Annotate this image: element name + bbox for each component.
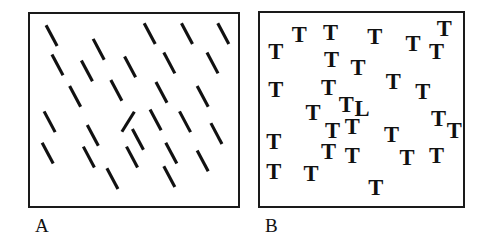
distractor-line-segment <box>52 55 63 76</box>
distractor-line-segment <box>181 23 192 44</box>
distractor-line-segment <box>144 23 155 44</box>
distractor-line-segment <box>44 111 55 132</box>
distractor-letter-t: T <box>305 100 320 125</box>
distractor-letter-t: T <box>429 39 444 64</box>
distractor-letter-t: T <box>437 16 452 41</box>
distractor-line-segment <box>211 123 222 144</box>
distractor-line-segment <box>150 109 161 130</box>
distractor-line-segment <box>81 60 92 81</box>
distractor-letter-t: T <box>367 24 382 49</box>
distractor-letter-t: T <box>400 145 415 170</box>
distractor-letter-t: T <box>266 129 281 154</box>
distractor-line-segment <box>207 53 218 74</box>
distractor-line-segment <box>218 23 229 44</box>
distractor-letter-t: T <box>268 39 283 64</box>
panel-b-letters-svg: TTTTTTTTTTTTTTLTTTTTTTTTTTTTT <box>260 13 463 206</box>
distractor-letter-t: T <box>384 122 399 147</box>
distractor-line-segment <box>179 111 190 132</box>
distractor-letter-t: T <box>323 20 338 45</box>
distractor-letter-t: T <box>324 47 339 72</box>
distractor-line-segment <box>70 86 81 107</box>
distractor-line-segment <box>125 57 136 78</box>
distractor-line-segment <box>87 125 98 146</box>
distractor-line-segment <box>42 143 53 164</box>
distractor-line-segment <box>164 166 175 187</box>
distractor-line-segment <box>166 143 177 164</box>
distractor-line-segment <box>156 82 167 103</box>
panel-b-stimulus-layer: TTTTTTTTTTTTTTLTTTTTTTTTTTTTT <box>260 13 463 206</box>
distractor-letter-t: T <box>268 77 283 102</box>
panel-b-box: TTTTTTTTTTTTTTLTTTTTTTTTTTTTT <box>258 11 465 208</box>
panel-a-box <box>28 12 240 208</box>
distractor-line-segment <box>197 151 208 172</box>
target-line-segment <box>122 112 134 132</box>
panel-b-label: B <box>265 216 278 235</box>
distractor-line-segment <box>132 129 143 150</box>
distractor-line-segment <box>83 147 94 168</box>
distractor-letter-t: T <box>429 143 444 168</box>
distractor-line-segment <box>127 147 138 168</box>
distractor-letter-t: T <box>351 55 366 80</box>
distractor-letter-t: T <box>345 114 360 139</box>
distractor-letter-t: T <box>431 106 446 131</box>
distractor-letter-t: T <box>292 22 307 47</box>
distractor-line-segment <box>46 25 57 46</box>
distractor-letter-t: T <box>386 69 401 94</box>
panel-a-lines-svg <box>30 14 238 206</box>
panel-a-label: A <box>35 216 49 235</box>
distractor-letter-t: T <box>321 75 336 100</box>
distractor-letter-t: T <box>415 79 430 104</box>
distractor-letter-t: T <box>368 175 383 200</box>
panel-a-stimulus-layer <box>30 14 238 206</box>
distractor-letter-t: T <box>447 118 462 143</box>
visual-search-figure: A TTTTTTTTTTTTTTLTTTTTTTTTTTTTT B <box>0 0 491 247</box>
distractor-letter-t: T <box>321 139 336 164</box>
distractor-line-segment <box>111 80 122 101</box>
distractor-letter-t: T <box>303 161 318 186</box>
distractor-line-segment <box>164 53 175 74</box>
distractor-line-segment <box>93 39 104 60</box>
distractor-letter-t: T <box>405 31 420 56</box>
distractor-line-segment <box>197 86 208 107</box>
distractor-letter-t: T <box>345 143 360 168</box>
distractor-letter-t: T <box>266 159 281 184</box>
distractor-line-segment <box>107 168 118 189</box>
